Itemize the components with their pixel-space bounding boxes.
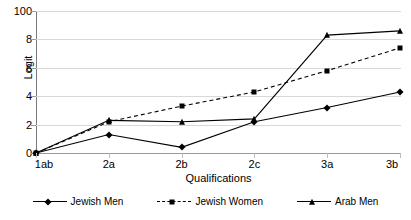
series-lines bbox=[36, 11, 401, 153]
data-point-marker bbox=[106, 117, 112, 123]
legend-marker-triangle-icon bbox=[309, 198, 315, 204]
legend-marker-diamond-icon bbox=[44, 198, 51, 205]
legend-item[interactable]: Jewish Women bbox=[157, 196, 263, 207]
chart-container: 02468100 Logit 1ab2a2b2c3a3b Qualificati… bbox=[0, 0, 411, 220]
data-point-marker bbox=[252, 89, 257, 94]
data-point-marker bbox=[179, 118, 185, 124]
x-axis-title: Qualifications bbox=[36, 172, 401, 184]
x-axis-tick-label: 1ab bbox=[35, 158, 53, 170]
x-axis-line bbox=[36, 153, 401, 154]
legend-swatch bbox=[297, 197, 331, 207]
legend-item[interactable]: Jewish Men bbox=[33, 196, 124, 207]
data-point-marker bbox=[324, 32, 330, 38]
series-line bbox=[36, 48, 400, 153]
data-point-marker bbox=[398, 45, 403, 50]
x-axis-tick-label: 2b bbox=[175, 158, 187, 170]
chart-legend: Jewish MenJewish WomenArab Men bbox=[0, 196, 411, 207]
legend-item[interactable]: Arab Men bbox=[297, 196, 378, 207]
legend-label: Jewish Women bbox=[195, 196, 263, 207]
data-point-marker bbox=[325, 68, 330, 73]
plot-area bbox=[36, 11, 401, 153]
data-point-marker bbox=[251, 116, 257, 122]
data-point-marker bbox=[179, 104, 184, 109]
x-axis-tick-label: 3a bbox=[321, 158, 333, 170]
x-axis-tick-label: 2c bbox=[249, 158, 261, 170]
series-line bbox=[36, 92, 400, 153]
x-axis-tick bbox=[400, 153, 401, 158]
y-axis-tick-label: 100 bbox=[14, 6, 32, 17]
legend-label: Jewish Men bbox=[71, 196, 124, 207]
x-axis-tick-label: 3b bbox=[386, 158, 398, 170]
x-axis-tick-label: 2a bbox=[103, 158, 115, 170]
legend-marker-square-icon bbox=[170, 199, 175, 204]
data-point-marker bbox=[397, 28, 403, 34]
legend-swatch bbox=[157, 197, 191, 207]
legend-swatch bbox=[33, 197, 67, 207]
y-axis-tick-labels: 02468100 bbox=[0, 0, 32, 220]
legend-label: Arab Men bbox=[335, 196, 378, 207]
